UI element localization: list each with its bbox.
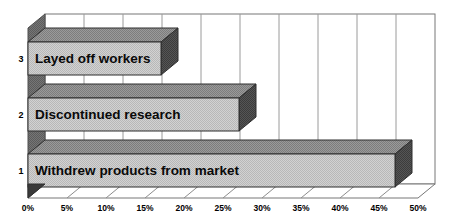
bar-2[interactable]: Discontinued research: [28, 84, 256, 131]
bar-1-top: [28, 140, 412, 154]
x-axis-label-10: 50%: [409, 203, 426, 213]
bar-3-top: [28, 28, 178, 42]
y-axis-label-2: 2: [18, 110, 23, 120]
bar-chart: Layed off workers Discontinued research …: [0, 0, 458, 218]
x-axis-label-6: 30%: [253, 203, 270, 213]
bar-1[interactable]: Withdrew products from market: [28, 140, 412, 187]
y-axis-labels: 3 2 1: [18, 54, 23, 176]
chart-canvas: Layed off workers Discontinued research …: [0, 0, 458, 218]
x-axis-label-5: 25%: [214, 203, 231, 213]
x-axis-label-8: 40%: [331, 203, 348, 213]
bar-2-top: [28, 84, 256, 98]
y-axis-label-3: 3: [18, 54, 23, 64]
x-axis-label-4: 20%: [175, 203, 192, 213]
x-axis-label-3: 15%: [136, 203, 153, 213]
y-axis-label-1: 1: [18, 166, 23, 176]
x-axis-label-0: 0%: [22, 203, 35, 213]
x-axis-labels: 0% 5% 10% 15% 20% 25% 30% 35% 40% 45% 50…: [22, 203, 427, 213]
bar-1-label: Withdrew products from market: [35, 163, 239, 178]
x-axis-label-7: 35%: [292, 203, 309, 213]
bar-2-label: Discontinued research: [35, 107, 181, 122]
bar-3[interactable]: Layed off workers: [28, 28, 178, 75]
x-axis-label-2: 10%: [97, 203, 114, 213]
bar-3-label: Layed off workers: [35, 51, 151, 66]
x-axis-label-9: 45%: [370, 203, 387, 213]
x-axis-label-1: 5%: [61, 203, 74, 213]
